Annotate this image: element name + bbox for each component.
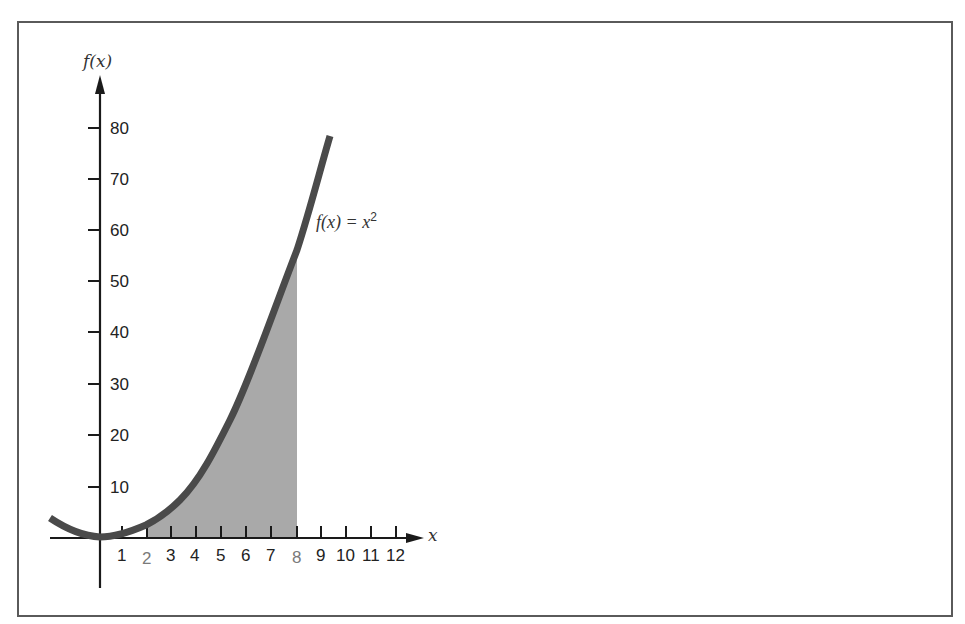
x-tick-label-highlighted: 8 — [292, 549, 301, 566]
x-tick-label: 7 — [266, 547, 275, 564]
y-axis-title: f(x) — [83, 53, 112, 70]
x-axis-arrow-icon — [406, 533, 424, 543]
y-tick-label: 20 — [110, 427, 129, 444]
y-tick-label: 40 — [110, 324, 129, 341]
x-tick-label: 1 — [117, 547, 126, 564]
x-tick-label: 6 — [241, 547, 250, 564]
x-axis-title: x — [428, 527, 438, 544]
y-tick-label: 50 — [110, 273, 129, 290]
x-tick-label: 4 — [190, 547, 199, 564]
x-tick-label: 9 — [316, 547, 325, 564]
function-label-text: f(x) = x — [316, 212, 370, 232]
y-tick-label: 30 — [110, 376, 129, 393]
x-tick-label-highlighted: 2 — [142, 550, 151, 567]
x-tick-label: 12 — [386, 547, 405, 564]
y-tick-label: 60 — [110, 222, 129, 239]
plot-area — [0, 0, 965, 624]
function-label-exponent: 2 — [370, 210, 377, 224]
function-label: f(x) = x2 — [316, 211, 377, 231]
x-tick-label: 10 — [336, 547, 355, 564]
y-tick-label: 80 — [110, 120, 129, 137]
shaded-area — [146, 250, 297, 538]
x-tick-label: 5 — [216, 547, 225, 564]
x-tick-label: 11 — [362, 547, 380, 564]
x-tick-label: 3 — [166, 547, 175, 564]
y-ticks — [88, 128, 100, 487]
y-tick-label: 10 — [110, 479, 129, 496]
y-tick-label: 70 — [110, 171, 129, 188]
y-axis-arrow-icon — [95, 75, 105, 94]
